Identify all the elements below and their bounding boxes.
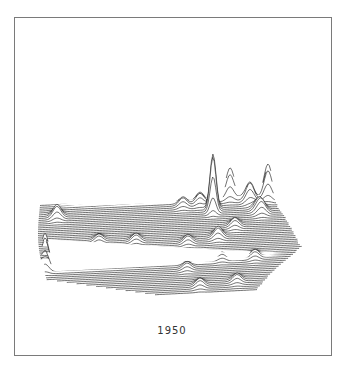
ridge-line <box>38 217 286 229</box>
year-label: 1950 <box>0 325 344 336</box>
population-ridge-map <box>0 0 344 370</box>
ridge-line <box>38 228 292 241</box>
ridge-lines <box>38 154 302 295</box>
